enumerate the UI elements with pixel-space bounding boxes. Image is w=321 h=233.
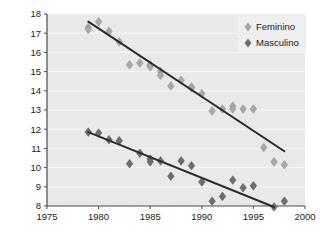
chart-container: 89101112131415161718 1975198019851990199…: [0, 0, 321, 233]
y-tick-label-17: 17: [30, 28, 41, 39]
y-tick-label-10: 10: [30, 162, 41, 173]
y-tick-label-15: 15: [30, 66, 41, 77]
x-tick-label-1980: 1980: [88, 211, 109, 222]
x-axis-tick-labels: 197519801985199019952000: [36, 211, 315, 222]
legend-label-masculino: Masculino: [256, 37, 299, 48]
scatter-chart: 89101112131415161718 1975198019851990199…: [0, 0, 321, 233]
y-tick-label-16: 16: [30, 47, 41, 58]
y-tick-label-12: 12: [30, 124, 41, 135]
x-tick-label-1985: 1985: [140, 211, 161, 222]
y-tick-label-8: 8: [36, 200, 41, 211]
y-tick-label-13: 13: [30, 104, 41, 115]
y-tick-label-14: 14: [30, 85, 41, 96]
x-tick-label-1990: 1990: [191, 211, 212, 222]
x-tick-label-2000: 2000: [294, 211, 315, 222]
x-tick-label-1975: 1975: [36, 211, 57, 222]
chart-legend: FemininoMasculino: [238, 16, 306, 52]
y-tick-label-11: 11: [31, 143, 41, 154]
y-tick-label-9: 9: [36, 181, 41, 192]
x-tick-label-1995: 1995: [243, 211, 264, 222]
legend-label-feminino: Feminino: [256, 21, 295, 32]
y-axis-tick-labels: 89101112131415161718: [30, 8, 41, 211]
y-tick-label-18: 18: [30, 8, 41, 19]
